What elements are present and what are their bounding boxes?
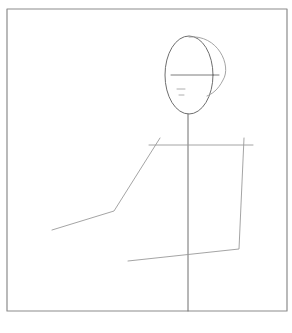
hair-arc — [189, 37, 226, 96]
picture-frame — [7, 9, 287, 311]
drawing-canvas — [0, 0, 292, 333]
left-arm — [52, 138, 160, 230]
stick-figure-sketch — [0, 0, 292, 333]
right-arm — [128, 138, 244, 261]
